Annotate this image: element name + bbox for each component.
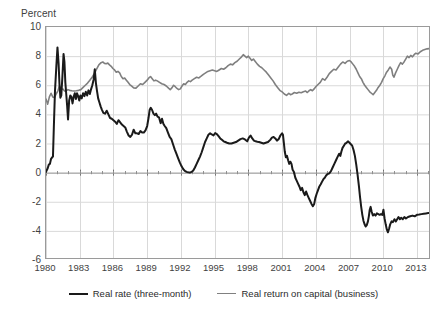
legend-label: Real return on capital (business) (241, 288, 378, 299)
y-tick-label: 10 (1, 21, 41, 32)
chart-legend: Real rate (three-month)Real return on ca… (0, 288, 447, 299)
y-tick-label: 6 (1, 79, 41, 90)
x-tick-label: 1992 (169, 262, 190, 273)
data-series-layer (46, 27, 430, 259)
legend-item[interactable]: Real rate (three-month) (69, 288, 192, 299)
legend-item[interactable]: Real return on capital (business) (217, 288, 378, 299)
y-tick-label: -2 (1, 195, 41, 206)
x-tick-label: 1995 (203, 262, 224, 273)
x-tick-label: 2001 (271, 262, 292, 273)
x-tick-label: 2010 (372, 262, 393, 273)
x-tick-label: 2013 (405, 262, 426, 273)
y-tick-label: 4 (1, 108, 41, 119)
x-tick-label: 1980 (34, 262, 55, 273)
x-tick-label: 1986 (102, 262, 123, 273)
y-tick-label: 8 (1, 50, 41, 61)
legend-swatch (69, 293, 88, 295)
x-tick-label: 1998 (237, 262, 258, 273)
series-line (46, 47, 430, 232)
x-tick-label: 2007 (338, 262, 359, 273)
x-tick-label: 2004 (304, 262, 325, 273)
legend-label: Real rate (three-month) (93, 288, 192, 299)
y-tick-label: -4 (1, 224, 41, 235)
plot-area (45, 26, 430, 259)
x-tick-label: 1989 (136, 262, 157, 273)
legend-swatch (217, 293, 236, 294)
y-tick-label: 0 (1, 166, 41, 177)
chart-figure: Percent 1086420-2-4-6 198019831986198919… (0, 0, 447, 314)
y-tick-label: 2 (1, 137, 41, 148)
series-line (46, 48, 430, 104)
x-axis-tick-labels: 1980198319861989199219951998200120042007… (45, 262, 430, 278)
x-tick-label: 1983 (68, 262, 89, 273)
